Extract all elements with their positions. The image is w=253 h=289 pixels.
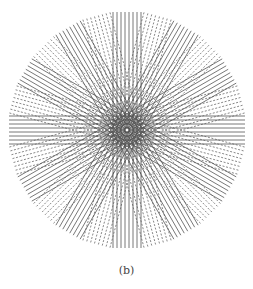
line-groups bbox=[9, 12, 245, 248]
solid-line-group-150deg bbox=[18, 59, 236, 201]
figure-caption: (b) bbox=[0, 264, 253, 277]
dashed-line-group-165deg bbox=[9, 86, 244, 174]
dashed-line-group-45deg bbox=[34, 37, 221, 224]
dashed-line-group-15deg bbox=[9, 86, 244, 174]
solid-line-group-30deg bbox=[18, 59, 236, 201]
solid-line-group-90deg bbox=[113, 12, 141, 248]
dashed-line-group-135deg bbox=[34, 37, 221, 224]
solid-line-group-120deg bbox=[56, 21, 198, 239]
solid-line-group-60deg bbox=[56, 21, 198, 239]
dashed-line-group-105deg bbox=[83, 12, 171, 247]
solid-line-group-0deg bbox=[9, 116, 245, 144]
dashed-line-group-75deg bbox=[83, 12, 171, 247]
parallel-line-pattern-diagram bbox=[0, 0, 253, 260]
